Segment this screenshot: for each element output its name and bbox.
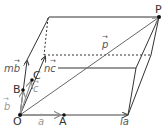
label-c-arrow: → xyxy=(33,78,39,86)
label-b-arrow: → xyxy=(3,95,9,103)
label-P: P xyxy=(155,3,162,16)
edge-right-front xyxy=(128,68,136,115)
label-la-arrow: → xyxy=(123,111,129,119)
parallelepiped-diagram: O A B C P mb → nc → b → c → a → p → la → xyxy=(0,0,166,126)
label-B: B xyxy=(13,83,21,96)
edge-right-front-2 xyxy=(128,55,151,115)
label-mb-arrow: → xyxy=(14,57,20,65)
edge-right-down-1 xyxy=(136,17,159,68)
point-B xyxy=(21,88,25,92)
label-p-arrow: → xyxy=(102,33,108,41)
edge-right-down-2 xyxy=(151,17,159,55)
label-nc-arrow: → xyxy=(50,57,56,65)
label-O: O xyxy=(13,115,22,126)
label-A: A xyxy=(59,115,67,126)
label-a-arrow: → xyxy=(37,111,43,119)
